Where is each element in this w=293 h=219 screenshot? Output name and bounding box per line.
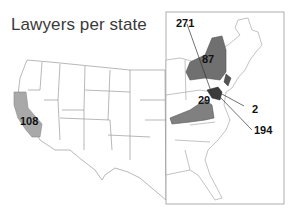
us-map: 108 87 29 271 2 194 xyxy=(0,0,293,219)
label-new-york: 87 xyxy=(202,53,214,65)
label-maryland: 194 xyxy=(254,124,273,136)
label-virginia: 29 xyxy=(198,94,210,106)
label-delaware: 2 xyxy=(252,103,258,115)
label-dc: 271 xyxy=(176,17,194,29)
label-california: 108 xyxy=(20,115,38,127)
